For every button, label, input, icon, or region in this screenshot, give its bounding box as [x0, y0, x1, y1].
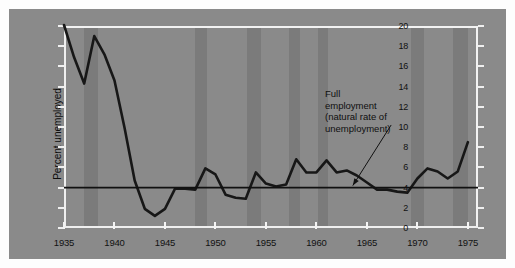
y-axis-tick-right	[478, 45, 484, 47]
y-axis-tick-right	[478, 106, 484, 108]
x-axis-tick-label: 1955	[256, 237, 276, 248]
x-axis-tick-label: 1935	[54, 237, 74, 248]
plot-area: 02468101214161820 1935194019451950195519…	[64, 26, 478, 228]
x-axis-tick-label: 1950	[205, 237, 225, 248]
x-axis-tick-label: 1975	[458, 237, 478, 248]
annotation-line-3: (natural rate of	[325, 111, 390, 123]
x-axis-tick-label: 1965	[357, 237, 377, 248]
x-axis-tick-label: 1960	[306, 237, 326, 248]
annotation-line-1: Full	[325, 88, 390, 100]
y-axis-tick-right	[478, 227, 484, 229]
full-employment-annotation: Full employment (natural rate of unemplo…	[325, 88, 390, 134]
y-axis-tick-right	[478, 126, 484, 128]
y-axis-tick-right	[478, 166, 484, 168]
y-axis-tick-right	[478, 146, 484, 148]
annotation-line-2: employment	[325, 100, 390, 112]
unemployment-chart-figure: Percent unemployed 02468101214161820 193…	[0, 0, 515, 268]
x-axis-tick-label: 1945	[155, 237, 175, 248]
y-axis-tick-right	[478, 65, 484, 67]
x-axis-tick-label: 1940	[104, 237, 124, 248]
page-margin-left	[0, 0, 9, 268]
annotation-line-4: unemployment)	[325, 123, 390, 135]
x-axis-tick-label: 1970	[407, 237, 427, 248]
y-axis-tick-right	[478, 25, 484, 27]
y-axis-tick-right	[478, 187, 484, 189]
annotation-arrow	[353, 125, 391, 186]
y-axis-tick-right	[478, 86, 484, 88]
y-axis-tick-right	[478, 207, 484, 209]
page-margin-top	[0, 0, 515, 9]
data-line-svg	[64, 26, 478, 228]
page-margin-bottom	[0, 259, 515, 268]
annotation-arrowhead	[353, 178, 359, 185]
page-margin-right	[506, 0, 515, 268]
